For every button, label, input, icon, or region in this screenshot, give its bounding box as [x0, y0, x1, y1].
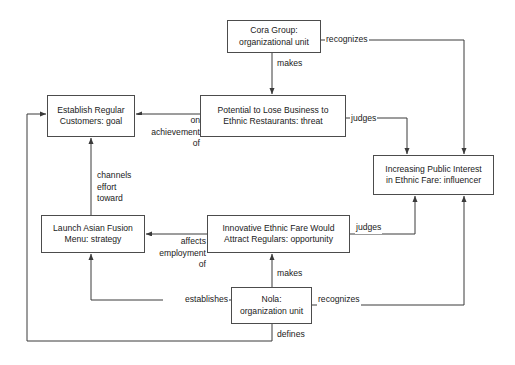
edge-label-opportunity-judges-influencer: judges: [355, 222, 382, 234]
edge-label-cora-makes-threat: makes: [276, 58, 303, 70]
edge-label-threat-judges-influencer: judges: [350, 113, 377, 125]
node-cora-group[interactable]: Cora Group: organizational unit: [227, 20, 321, 53]
edge-label-opportunity-affects-employment-of-strategy: affects employment of: [145, 236, 207, 271]
node-launch-asian-fusion-menu[interactable]: Launch Asian Fusion Menu: strategy: [41, 215, 145, 253]
node-increasing-public-interest[interactable]: Increasing Public Interest in Ethnic Far…: [373, 155, 494, 195]
node-innovative-ethnic-fare-label: Innovative Ethnic Fare Would Attract Reg…: [219, 223, 337, 246]
node-nola[interactable]: Nola: organization unit: [231, 287, 312, 324]
edge-label-cora-recognizes-influencer: recognizes: [325, 34, 369, 46]
edge-label-strategy-channels-effort-toward-goal: channels effort toward: [96, 170, 132, 205]
node-potential-lose-business-label: Potential to Lose Business to Ethnic Res…: [215, 105, 332, 128]
edge-label-nola-establishes-strategy: establishes: [163, 294, 229, 306]
node-establish-regular-customers-label: Establish Regular Customers: goal: [54, 105, 127, 128]
edge-label-nola-recognizes-influencer: recognizes: [317, 294, 361, 306]
edge-label-nola-makes-opportunity: makes: [276, 268, 303, 280]
edge-label-nola-defines-goal: defines: [276, 329, 306, 341]
node-nola-label: Nola: organization unit: [237, 294, 306, 317]
node-launch-asian-fusion-menu-label: Launch Asian Fusion Menu: strategy: [50, 223, 136, 246]
node-innovative-ethnic-fare[interactable]: Innovative Ethnic Fare Would Attract Reg…: [207, 215, 350, 253]
node-establish-regular-customers[interactable]: Establish Regular Customers: goal: [47, 95, 135, 137]
node-increasing-public-interest-label: Increasing Public Interest in Ethnic Far…: [382, 164, 485, 187]
node-cora-group-label: Cora Group: organizational unit: [236, 25, 312, 48]
diagram-canvas: Cora Group: organizational unit Potentia…: [0, 0, 515, 365]
node-potential-lose-business[interactable]: Potential to Lose Business to Ethnic Res…: [200, 95, 346, 137]
edge-label-threat-on-achievement-of-goal: on achievement of: [130, 115, 201, 150]
